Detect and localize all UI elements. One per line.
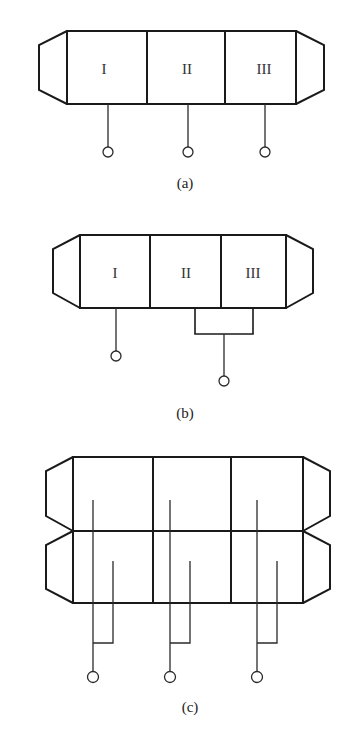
figure-caption-a: (a): [177, 175, 194, 192]
terminal-icon: [260, 147, 270, 157]
terminal-icon: [111, 351, 121, 361]
terminal-icon: [183, 147, 193, 157]
terminal-icon: [252, 672, 263, 683]
upper-enclosure-body: [73, 457, 303, 531]
left-end-cap: [53, 235, 80, 308]
lower-enclosure-body: [73, 531, 303, 603]
terminal-icon: [88, 672, 99, 683]
bridge-connector: [195, 308, 253, 334]
lower-right-end-cap: [303, 531, 330, 603]
section-label-3: III: [246, 265, 261, 281]
section-label-2: II: [182, 61, 192, 77]
figure-b: I II III (b): [53, 235, 313, 422]
section-label-1: I: [113, 265, 118, 281]
left-end-cap: [39, 31, 67, 104]
upper-right-end-cap: [303, 457, 330, 531]
section-label-2: II: [181, 265, 191, 281]
diagram-canvas: I II III (a) I II III (b): [0, 0, 352, 741]
section-label-3: III: [257, 61, 272, 77]
right-end-cap: [286, 235, 313, 308]
lower-left-end-cap: [46, 531, 73, 603]
right-end-cap: [296, 31, 324, 104]
terminal-icon: [165, 672, 176, 683]
figure-caption-b: (b): [176, 405, 194, 422]
terminal-icon: [219, 376, 229, 386]
upper-left-end-cap: [46, 457, 73, 531]
section-label-1: I: [102, 61, 107, 77]
figure-c: (c): [46, 457, 330, 716]
terminal-icon: [103, 147, 113, 157]
figure-a: I II III (a): [39, 31, 324, 192]
figure-caption-c: (c): [182, 699, 199, 716]
